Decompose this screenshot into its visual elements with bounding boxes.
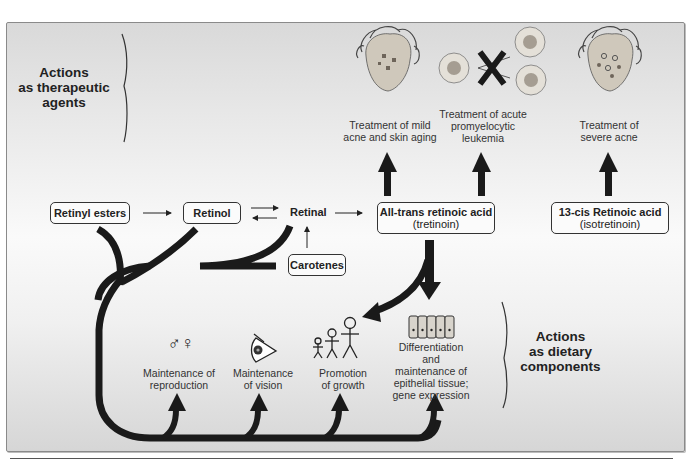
upward-arrows — [378, 152, 618, 196]
carotenes-node: Carotenes — [288, 254, 346, 276]
dietary-effect-epithelial: Differentiation and maintenance of epith… — [390, 341, 472, 401]
dietary-effect-vision: Maintenance of vision — [228, 367, 298, 391]
retinyl-esters-node: Retinyl esters — [50, 202, 130, 224]
therapeutic-bracket — [122, 34, 127, 142]
dietary-actions-heading: Actions as dietary components — [508, 329, 613, 374]
retinal-node: Retinal — [290, 206, 327, 218]
therapeutic-effect-apl: Treatment of acute promyelocytic leukemi… — [428, 108, 538, 144]
growing-figures-icon — [313, 318, 359, 359]
retinol-node: Retinol — [183, 202, 241, 224]
dietary-effect-reproduction: Maintenance of reproduction — [134, 367, 224, 391]
dietary-bracket — [502, 302, 507, 408]
dietary-effect-growth: Promotion of growth — [313, 367, 373, 391]
male-female-symbols-icon: ♂♀ — [166, 333, 196, 353]
face-with-lesions-icon — [357, 27, 420, 91]
blocked-cell-division-icon — [439, 27, 546, 95]
epithelial-cells-icon — [409, 316, 454, 338]
all-trans-retinoic-acid-node: All-trans retinoic acid (tretinoin) — [377, 202, 495, 234]
therapeutic-effect-severe-acne: Treatment of severe acne — [564, 119, 654, 143]
13-cis-retinoic-acid-node: 13-cis Retinoic acid (isotretinoin) — [551, 202, 669, 234]
therapeutic-actions-heading: Actions as therapeutic agents — [14, 65, 114, 110]
face-with-severe-lesions-icon — [579, 27, 642, 91]
eye-icon — [252, 334, 277, 362]
